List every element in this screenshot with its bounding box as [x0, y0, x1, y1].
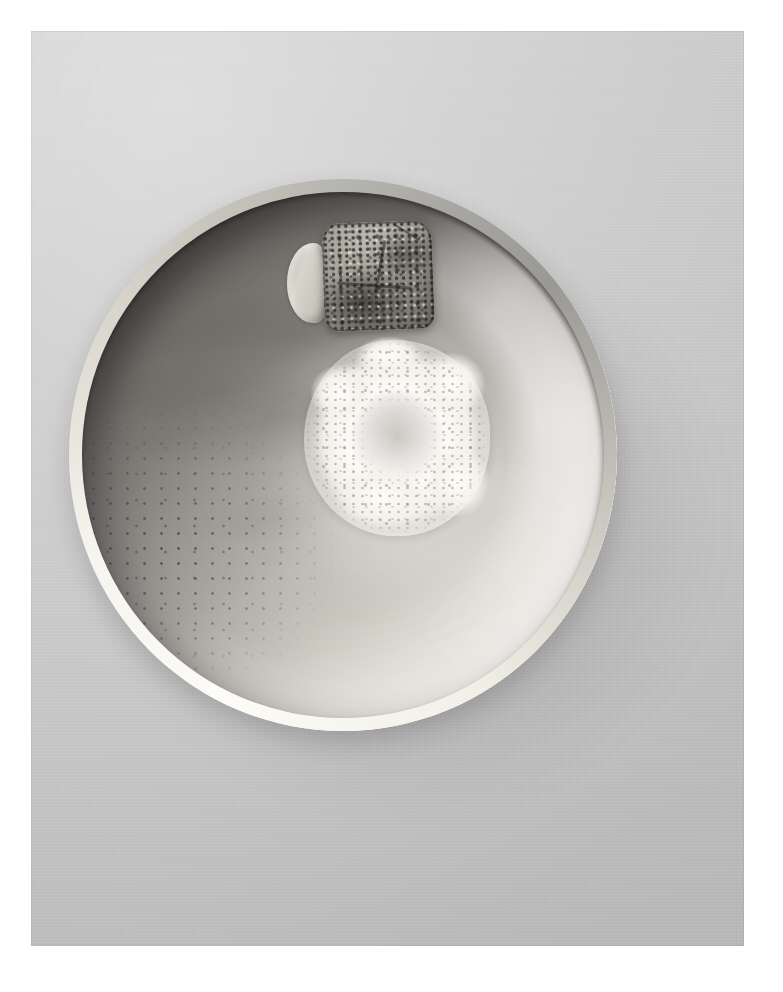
screenshot-canvas	[0, 0, 783, 992]
seared-morsel	[321, 220, 435, 332]
photographic-print	[31, 31, 744, 946]
foam-ring	[304, 340, 490, 536]
ceramic-bowl	[69, 179, 617, 731]
sear-crust-edge	[321, 220, 435, 332]
foam-bubble-texture	[304, 340, 490, 536]
